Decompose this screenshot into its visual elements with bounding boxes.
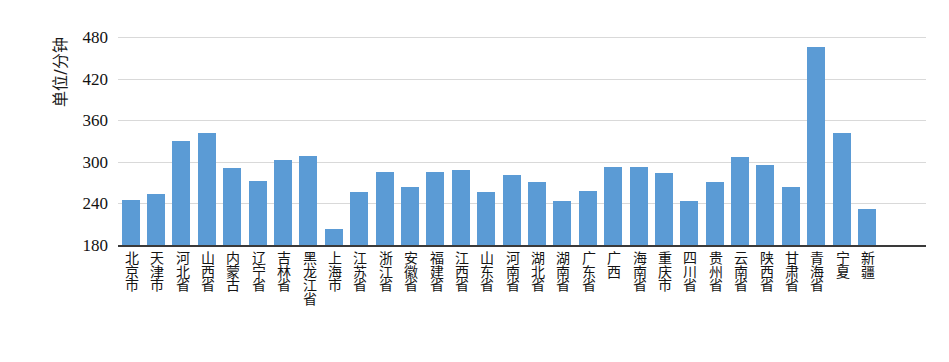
bar-slot bbox=[397, 37, 422, 245]
bar-slot bbox=[778, 37, 803, 245]
bar[interactable] bbox=[249, 181, 267, 245]
x-slot: 河南省 bbox=[499, 251, 524, 292]
bar[interactable] bbox=[223, 168, 241, 245]
bar[interactable] bbox=[858, 209, 876, 245]
bar[interactable] bbox=[655, 173, 673, 245]
x-tick-label: 陕西省 bbox=[758, 251, 772, 292]
bar-slot bbox=[245, 37, 270, 245]
bar-slot bbox=[423, 37, 448, 245]
bar-slot bbox=[829, 37, 854, 245]
x-slot: 江苏省 bbox=[347, 251, 372, 292]
bar[interactable] bbox=[325, 229, 343, 245]
bar-slot bbox=[169, 37, 194, 245]
bar[interactable] bbox=[528, 182, 546, 245]
x-slot: 上海市 bbox=[321, 251, 346, 292]
x-slot: 甘肃省 bbox=[778, 251, 803, 292]
x-tick-label: 福建省 bbox=[428, 251, 442, 292]
bar[interactable] bbox=[122, 200, 140, 245]
bar[interactable] bbox=[503, 175, 521, 245]
x-slot: 湖北省 bbox=[524, 251, 549, 292]
x-tick-label: 四川省 bbox=[682, 251, 696, 292]
bar[interactable] bbox=[807, 47, 825, 245]
x-slot: 河北省 bbox=[169, 251, 194, 292]
bar[interactable] bbox=[147, 194, 165, 245]
bar[interactable] bbox=[198, 133, 216, 245]
bar[interactable] bbox=[553, 201, 571, 245]
bar[interactable] bbox=[401, 187, 419, 245]
bar-slot bbox=[702, 37, 727, 245]
bar[interactable] bbox=[477, 192, 495, 245]
bar[interactable] bbox=[426, 172, 444, 245]
bar-slot bbox=[804, 37, 829, 245]
x-slot: 天津市 bbox=[143, 251, 168, 292]
bar[interactable] bbox=[604, 167, 622, 245]
bar[interactable] bbox=[756, 165, 774, 245]
x-slot: 浙江省 bbox=[372, 251, 397, 292]
bar[interactable] bbox=[376, 172, 394, 245]
bar-slot bbox=[321, 37, 346, 245]
bar-slot bbox=[626, 37, 651, 245]
x-tick-label: 浙江省 bbox=[377, 251, 391, 292]
y-tick-label: 240 bbox=[56, 195, 108, 212]
x-tick-label: 山西省 bbox=[200, 251, 214, 292]
bar[interactable] bbox=[731, 157, 749, 245]
plot-area bbox=[118, 37, 926, 247]
y-tick-label: 420 bbox=[56, 70, 108, 87]
x-slot: 福建省 bbox=[423, 251, 448, 292]
x-axis-line bbox=[118, 245, 926, 247]
bar-slot bbox=[499, 37, 524, 245]
bar-slot bbox=[550, 37, 575, 245]
x-slot: 云南省 bbox=[727, 251, 752, 292]
x-slot: 辽宁省 bbox=[245, 251, 270, 292]
x-slot: 北京市 bbox=[118, 251, 143, 292]
x-tick-label: 甘肃省 bbox=[784, 251, 798, 292]
bar-slot bbox=[473, 37, 498, 245]
x-slot: 湖南省 bbox=[550, 251, 575, 292]
bar-slot bbox=[677, 37, 702, 245]
x-tick-label: 黑龙江省 bbox=[301, 251, 315, 305]
bar-slot bbox=[194, 37, 219, 245]
x-tick-label: 广东省 bbox=[581, 251, 595, 292]
x-tick-label: 贵州省 bbox=[708, 251, 722, 292]
x-slot: 四川省 bbox=[677, 251, 702, 292]
bar[interactable] bbox=[274, 160, 292, 245]
x-tick-label: 江苏省 bbox=[352, 251, 366, 292]
bar[interactable] bbox=[299, 156, 317, 245]
bar[interactable] bbox=[579, 191, 597, 245]
x-slot: 广东省 bbox=[575, 251, 600, 292]
x-slot: 黑龙江省 bbox=[296, 251, 321, 305]
x-slot: 吉林省 bbox=[270, 251, 295, 292]
bar[interactable] bbox=[172, 141, 190, 245]
bar[interactable] bbox=[680, 201, 698, 245]
x-slot: 山东省 bbox=[473, 251, 498, 292]
x-slot: 贵州省 bbox=[702, 251, 727, 292]
bar-slot bbox=[372, 37, 397, 245]
bar-slot bbox=[270, 37, 295, 245]
x-tick-label: 吉林省 bbox=[276, 251, 290, 292]
bar-slot bbox=[118, 37, 143, 245]
bar[interactable] bbox=[782, 187, 800, 245]
bar-slot bbox=[524, 37, 549, 245]
bar[interactable] bbox=[706, 182, 724, 245]
x-slot: 海南省 bbox=[626, 251, 651, 292]
x-tick-label: 湖北省 bbox=[530, 251, 544, 292]
bar-slot bbox=[854, 37, 879, 245]
x-slot: 安徽省 bbox=[397, 251, 422, 292]
x-slot: 青海省 bbox=[804, 251, 829, 292]
bar[interactable] bbox=[630, 167, 648, 245]
bar[interactable] bbox=[833, 133, 851, 245]
x-slot: 宁夏 bbox=[829, 251, 854, 278]
x-tick-label: 河北省 bbox=[174, 251, 188, 292]
bar-slot bbox=[600, 37, 625, 245]
y-tick-label: 180 bbox=[56, 237, 108, 254]
bar[interactable] bbox=[350, 192, 368, 245]
x-tick-label: 青海省 bbox=[809, 251, 823, 292]
bar[interactable] bbox=[452, 170, 470, 245]
bar-slot bbox=[220, 37, 245, 245]
x-slot: 重庆市 bbox=[651, 251, 676, 292]
x-slot: 江西省 bbox=[448, 251, 473, 292]
y-tick-label: 480 bbox=[56, 29, 108, 46]
x-tick-label: 宁夏 bbox=[835, 251, 849, 278]
bar-slot bbox=[575, 37, 600, 245]
x-tick-label: 山东省 bbox=[479, 251, 493, 292]
